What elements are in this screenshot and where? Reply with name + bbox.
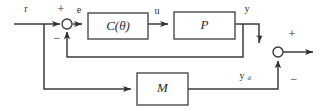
plant-block-label: P (200, 17, 209, 32)
block-diagram-canvas: C(θ) P M r e u y y d + − + − (0, 0, 328, 110)
error-junction-minus-sign: − (54, 31, 61, 45)
controller-block-label: C(θ) (106, 18, 130, 33)
block-diagram-svg: C(θ) P M r e u y y d + − + − (0, 0, 328, 110)
wire-plant-output-to-sum (235, 24, 259, 43)
error-summing-junction[interactable] (62, 19, 72, 29)
signal-label-desired-output-subscript: d (248, 74, 252, 81)
output-summing-junction[interactable] (273, 47, 283, 57)
wire-model-output-to-sum (188, 61, 278, 89)
signal-label-desired-output: y (240, 70, 245, 81)
signal-label-output: y (245, 3, 250, 14)
error-junction-plus-sign: + (58, 2, 65, 16)
model-block-label: M (156, 80, 169, 95)
signal-label-reference: r (24, 3, 28, 14)
output-junction-plus-sign: + (289, 27, 296, 41)
signal-label-control: u (155, 5, 160, 16)
signal-label-error: e (77, 4, 82, 15)
output-junction-minus-sign: − (291, 72, 298, 86)
